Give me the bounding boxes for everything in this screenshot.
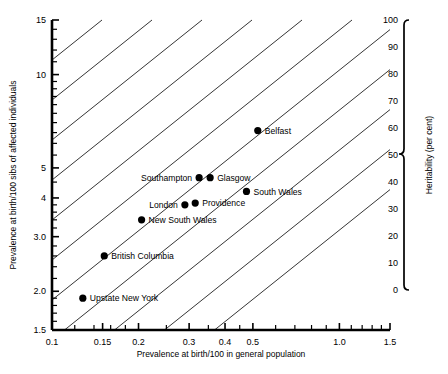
x-axis-tick-label: 0.1	[46, 337, 59, 347]
data-point: London	[149, 200, 188, 210]
x-axis-tick-label: 0.15	[94, 337, 112, 347]
data-point-label: London	[149, 200, 178, 210]
data-point-marker	[243, 188, 250, 195]
data-point-label: Upstate New York	[90, 293, 159, 303]
data-point-label: Belfast	[265, 126, 292, 136]
data-point-label: Southampton	[141, 173, 192, 183]
heritability-tick-label: 90	[388, 42, 398, 52]
data-point-marker	[196, 174, 203, 181]
data-point: Glasgow	[207, 173, 252, 183]
y-axis-tick-label-group: 1.52.03.0451015	[33, 15, 46, 335]
y-axis-tick-label: 5	[41, 163, 46, 173]
data-point: Southampton	[141, 173, 203, 183]
heritability-line	[215, 190, 391, 330]
x-axis-tick-label: 0.4	[219, 337, 232, 347]
heritability-tick-label-group: 0102030405060708090100	[383, 15, 398, 295]
heritability-tick-label: 10	[388, 258, 398, 268]
data-point-marker	[79, 295, 86, 302]
x-axis-tick-label: 1.5	[384, 337, 397, 347]
heritability-tick-label: 70	[388, 96, 398, 106]
x-axis-tick-label: 0.5	[247, 337, 260, 347]
y-axis-tick-label: 10	[36, 70, 46, 80]
heritability-line	[52, 20, 152, 100]
heritability-line	[52, 20, 102, 60]
data-point-label: Providence	[202, 198, 245, 208]
data-point-label: South Wales	[253, 187, 301, 197]
heritability-tick-label: 80	[388, 69, 398, 79]
heritability-bracket	[399, 20, 409, 290]
chart-figure: 1.52.03.0451015 0.10.150.20.30.40.51.01.…	[0, 0, 448, 374]
data-point: British Columbia	[101, 251, 174, 261]
data-point-marker	[138, 216, 145, 223]
x-axis-tick-label: 0.3	[183, 337, 196, 347]
heritability-line	[52, 20, 252, 180]
data-point: South Wales	[243, 187, 302, 197]
x-axis-tick-label: 0.2	[132, 337, 145, 347]
heritability-tick-label: 100	[383, 15, 398, 25]
data-point-marker	[101, 252, 108, 259]
scatter-plot-canvas: 1.52.03.0451015 0.10.150.20.30.40.51.01.…	[0, 0, 448, 374]
heritability-tick-label: 50	[388, 150, 398, 160]
y-axis-tick-label: 4	[41, 193, 46, 203]
x-axis-title: Prevalence at birth/100 in general popul…	[137, 349, 306, 359]
y-axis-tick-label: 1.5	[33, 325, 46, 335]
y-axis-tick-label: 2.0	[33, 286, 46, 296]
data-point-label: British Columbia	[111, 251, 174, 261]
data-point: Providence	[192, 198, 246, 208]
y-axis-title: Prevalence at birth/100 sibs of affected…	[8, 81, 18, 270]
data-point-marker	[181, 201, 188, 208]
heritability-axis-title: Heritability (per cent)	[424, 116, 434, 195]
heritability-line	[52, 30, 390, 300]
heritability-tick-label: 20	[388, 231, 398, 241]
heritability-tick-label: 30	[388, 204, 398, 214]
data-point-group: BelfastSouthamptonGlasgowSouth WalesLond…	[79, 126, 302, 304]
x-axis-tick-label-group: 0.10.150.20.30.40.51.01.5	[46, 337, 397, 347]
data-point-label: Glasgow	[217, 173, 251, 183]
data-point-marker	[207, 174, 214, 181]
y-axis-tick-label: 3.0	[33, 232, 46, 242]
x-axis-tick-label: 1.0	[333, 337, 346, 347]
data-point-marker	[192, 199, 199, 206]
heritability-tick-label: 0	[393, 285, 398, 295]
heritability-tick-label: 60	[388, 123, 398, 133]
heritability-line	[52, 20, 202, 140]
data-point: Upstate New York	[79, 293, 159, 303]
y-axis-tick-label: 15	[36, 15, 46, 25]
data-point-marker	[254, 127, 261, 134]
data-point-label: New South Wales	[149, 215, 217, 225]
data-point: New South Wales	[138, 215, 217, 225]
heritability-tick-label: 40	[388, 177, 398, 187]
